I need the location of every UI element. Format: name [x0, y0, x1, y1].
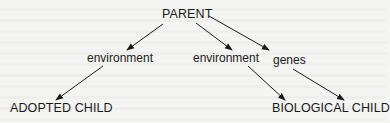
- edge-parent-to-genes: [209, 16, 269, 50]
- node-adopted-child: ADOPTED CHILD: [10, 102, 113, 115]
- edge-genes-to-biological: [293, 69, 344, 100]
- node-biological-child: BIOLOGICAL CHILD: [272, 102, 390, 115]
- node-parent: PARENT: [162, 8, 212, 21]
- node-genes: genes: [273, 54, 306, 66]
- edge-parent-to-env-mid: [196, 23, 232, 50]
- node-environment-middle: environment: [193, 52, 259, 64]
- edge-parent-to-env-left: [127, 24, 163, 50]
- node-environment-left: environment: [87, 52, 153, 64]
- edge-env-mid-to-biological: [248, 66, 285, 100]
- edge-env-left-to-adopted: [56, 66, 103, 100]
